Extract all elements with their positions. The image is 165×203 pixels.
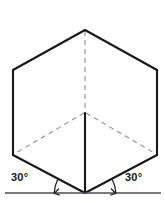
left-angle-label: 30° xyxy=(11,172,28,183)
figure-container: 30° 30° xyxy=(0,0,165,203)
hidden-edge-right xyxy=(86,113,156,154)
hidden-edge-left xyxy=(14,113,84,154)
right-angle-label: 30° xyxy=(125,172,142,183)
visible-edges-group xyxy=(13,30,157,193)
